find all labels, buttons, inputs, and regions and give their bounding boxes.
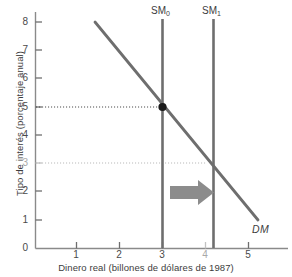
sm0-curve-label-subscript: 0 xyxy=(166,10,170,17)
chart-plot-area xyxy=(0,0,292,277)
sm1-curve-label-base: SM xyxy=(202,5,217,16)
y-tick-label-1: 1 xyxy=(14,215,28,225)
dm-curve-label: DM xyxy=(252,224,269,235)
sm1-curve-label-subscript: 1 xyxy=(217,10,221,17)
supply-shift-arrow xyxy=(170,180,214,205)
initial-equilibrium-point xyxy=(158,103,166,111)
y-axis-ticks xyxy=(36,22,43,220)
y-tick-label-0: 0 xyxy=(14,243,28,253)
money-market-chart: 8 7 6 5 4 3 2 1 0 1 2 3 4 5 SM0 SM1 DM D… xyxy=(0,0,292,277)
x-tick-label-2: 2 xyxy=(111,250,127,260)
sm0-curve-label: SM0 xyxy=(151,6,170,17)
sm0-curve-label-base: SM xyxy=(151,5,166,16)
y-axis-title: Tipo de interés (porcentaje anual) xyxy=(14,44,25,204)
x-tick-label-5: 5 xyxy=(240,250,256,260)
x-axis-title: Dinero real (billones de dólares de 1987… xyxy=(0,262,292,273)
sm1-curve-label: SM1 xyxy=(202,6,221,17)
y-tick-label-8: 8 xyxy=(14,17,28,27)
x-tick-label-1: 1 xyxy=(68,250,84,260)
x-tick-label-4: 4 xyxy=(197,250,213,260)
x-tick-label-3: 3 xyxy=(154,250,170,260)
